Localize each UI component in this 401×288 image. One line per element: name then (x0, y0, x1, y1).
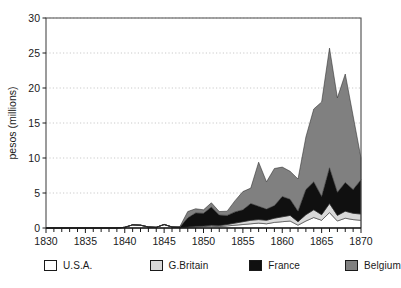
x-tick-label: 1870 (349, 235, 373, 246)
x-tick-label: 1830 (34, 235, 58, 246)
legend-label-belgium: Belgium (364, 260, 401, 271)
legend-label-gbritain: G.Britain (169, 260, 209, 271)
legend-label-usa: U.S.A. (63, 260, 93, 271)
y-tick-label: 25 (28, 47, 40, 59)
y-tick-label: 0 (34, 222, 40, 234)
y-tick-label: 10 (28, 152, 40, 164)
legend-item-france: France (249, 260, 300, 271)
y-axis-title: pesos (millions) (6, 87, 18, 160)
legend-item-belgium: Belgium (345, 260, 401, 271)
legend-item-usa: U.S.A. (44, 260, 93, 271)
x-tick-label: 1850 (192, 235, 216, 246)
legend-swatch-france (249, 260, 262, 271)
plot-area: 0510152025301830183518401845185018551860… (0, 0, 391, 246)
x-tick-label: 1855 (231, 235, 255, 246)
legend-label-france: France (268, 260, 300, 271)
y-tick-label: 5 (34, 187, 40, 199)
legend-swatch-belgium (345, 260, 358, 271)
x-tick-label: 1840 (113, 235, 137, 246)
x-tick-label: 1865 (310, 235, 334, 246)
y-tick-label: 30 (28, 12, 40, 24)
legend-swatch-gbritain (150, 260, 163, 271)
legend-item-gbritain: G.Britain (150, 260, 209, 271)
stacked-area-chart: 0510152025301830183518401845185018551860… (0, 0, 391, 246)
y-tick-label: 15 (28, 117, 40, 129)
legend-swatch-usa (44, 260, 57, 271)
x-tick-label: 1845 (152, 235, 176, 246)
x-tick-label: 1860 (271, 235, 295, 246)
y-tick-label: 20 (28, 82, 40, 94)
x-tick-label: 1835 (74, 235, 98, 246)
chart-legend: U.S.A. G.Britain France Belgium (0, 250, 391, 280)
